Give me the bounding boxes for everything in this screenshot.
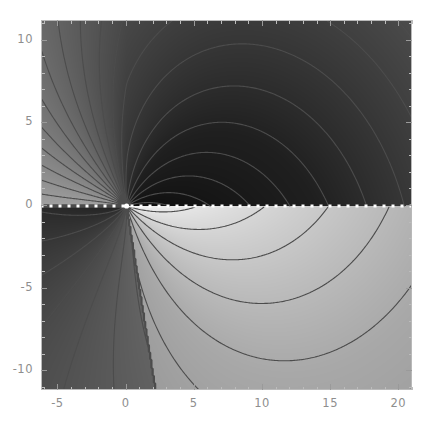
x-tick-minor--2	[98, 387, 99, 391]
x-tick-minor-3	[166, 387, 167, 391]
y-tick-minor-7	[41, 89, 45, 90]
plot-area	[42, 21, 411, 389]
x-tick-top-minor-18	[371, 20, 372, 24]
x-tick-top-minor-8	[235, 20, 236, 24]
y-tick-minor--7	[41, 321, 45, 322]
y-tick-major-10	[41, 40, 47, 41]
x-tick-top-minor-14	[317, 20, 318, 24]
y-tick-right-minor--9	[409, 354, 413, 355]
y-tick-minor-3	[41, 155, 45, 156]
x-tick-top-minor--4	[71, 20, 72, 24]
x-tick-minor-6	[207, 387, 208, 391]
y-tick-minor-11	[41, 23, 45, 24]
x-tick-minor-19	[385, 387, 386, 391]
branch-cut-line	[42, 21, 411, 389]
y-tick-label--5: -5	[0, 280, 33, 294]
y-tick-major--10	[41, 370, 47, 371]
x-tick-minor-14	[317, 387, 318, 391]
y-tick-minor--6	[41, 304, 45, 305]
y-tick-right-minor-6	[409, 106, 413, 107]
x-tick-minor--1	[112, 387, 113, 391]
y-tick-right-minor-3	[409, 155, 413, 156]
x-tick-label-5: 5	[169, 396, 219, 410]
y-tick-right-major--10	[406, 370, 412, 371]
y-tick-minor--9	[41, 354, 45, 355]
y-tick-right-minor-11	[409, 23, 413, 24]
x-tick-minor-8	[235, 387, 236, 391]
x-tick-top-minor-21	[412, 20, 413, 24]
y-tick-minor-4	[41, 139, 45, 140]
y-tick-right-minor--1	[409, 222, 413, 223]
x-tick-top-major-0	[126, 20, 127, 26]
y-tick-right-major--5	[406, 288, 412, 289]
y-tick-major-5	[41, 122, 47, 123]
x-tick-minor-16	[344, 387, 345, 391]
x-tick-top-minor-11	[276, 20, 277, 24]
x-tick-minor-11	[276, 387, 277, 391]
x-tick-top-major-15	[330, 20, 331, 26]
x-tick-minor-7	[221, 387, 222, 391]
y-tick-minor--3	[41, 255, 45, 256]
y-tick-right-minor--3	[409, 255, 413, 256]
y-tick-right-minor--4	[409, 271, 413, 272]
x-tick-top-minor-13	[303, 20, 304, 24]
y-tick-right-minor--7	[409, 321, 413, 322]
y-tick-right-minor--2	[409, 238, 413, 239]
y-tick-label-0: 0	[0, 197, 33, 211]
y-tick-minor-2	[41, 172, 45, 173]
y-tick-minor--1	[41, 222, 45, 223]
x-tick-top-minor-6	[207, 20, 208, 24]
x-tick-top-minor--3	[85, 20, 86, 24]
y-tick-right-major-5	[406, 122, 412, 123]
x-tick-top-minor-17	[357, 20, 358, 24]
x-tick-label-20: 20	[373, 396, 423, 410]
y-tick-minor-1	[41, 188, 45, 189]
x-tick-top-minor-2	[153, 20, 154, 24]
y-tick-label-5: 5	[0, 114, 33, 128]
y-tick-right-major-10	[406, 40, 412, 41]
y-tick-right-minor-2	[409, 172, 413, 173]
y-tick-label--10: -10	[0, 362, 33, 376]
x-tick-top-major--5	[57, 20, 58, 26]
y-tick-major-0	[41, 205, 47, 206]
y-tick-major--5	[41, 288, 47, 289]
x-tick-major--5	[57, 384, 58, 390]
y-tick-right-minor-9	[409, 56, 413, 57]
x-tick-major-20	[398, 384, 399, 390]
figure-root: -5051015201050-5-10	[0, 0, 431, 431]
x-tick-minor-13	[303, 387, 304, 391]
x-tick-major-5	[194, 384, 195, 390]
x-tick-minor-21	[412, 387, 413, 391]
y-tick-right-minor--11	[409, 387, 413, 388]
x-tick-minor--4	[71, 387, 72, 391]
y-tick-minor-9	[41, 56, 45, 57]
x-tick-top-minor-16	[344, 20, 345, 24]
x-tick-minor-18	[371, 387, 372, 391]
x-tick-label-10: 10	[237, 396, 287, 410]
x-tick-top-major-20	[398, 20, 399, 26]
x-tick-top-minor-9	[248, 20, 249, 24]
x-tick-top-minor-3	[166, 20, 167, 24]
x-tick-label--5: -5	[32, 396, 82, 410]
x-tick-major-0	[126, 384, 127, 390]
x-tick-top-major-5	[194, 20, 195, 26]
y-tick-right-major-0	[406, 205, 412, 206]
x-tick-minor-9	[248, 387, 249, 391]
x-tick-top-minor-1	[139, 20, 140, 24]
x-tick-minor-2	[153, 387, 154, 391]
y-tick-minor--2	[41, 238, 45, 239]
x-tick-minor-12	[289, 387, 290, 391]
y-tick-minor--11	[41, 387, 45, 388]
x-tick-minor-17	[357, 387, 358, 391]
x-tick-top-major-10	[262, 20, 263, 26]
x-tick-major-10	[262, 384, 263, 390]
x-tick-top-minor-19	[385, 20, 386, 24]
y-tick-right-minor--6	[409, 304, 413, 305]
x-tick-label-15: 15	[305, 396, 355, 410]
x-tick-top-minor--1	[112, 20, 113, 24]
plot-frame	[41, 20, 412, 390]
x-tick-top-minor-4	[180, 20, 181, 24]
x-tick-top-minor-7	[221, 20, 222, 24]
x-tick-label-0: 0	[101, 396, 151, 410]
x-tick-top-minor-12	[289, 20, 290, 24]
